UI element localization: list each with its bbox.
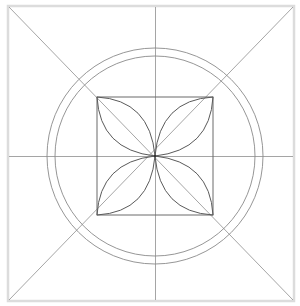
petal-bottom-right bbox=[155, 156, 213, 215]
geometric-construction bbox=[0, 0, 300, 306]
center-point bbox=[154, 155, 157, 158]
petal-bottom-left bbox=[97, 156, 155, 215]
diagram-canvas bbox=[0, 0, 300, 306]
petal-top-left bbox=[97, 97, 155, 156]
petal-top-right bbox=[155, 97, 213, 156]
